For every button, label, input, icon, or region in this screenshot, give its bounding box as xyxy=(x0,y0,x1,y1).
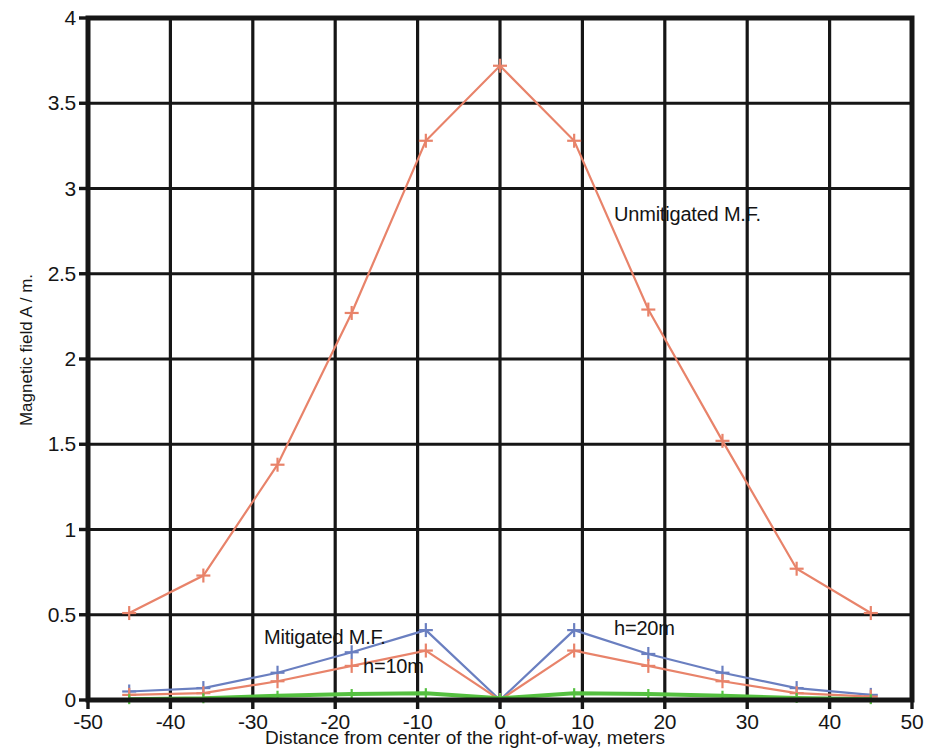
data-point-marker xyxy=(641,303,655,317)
data-point-marker xyxy=(271,674,285,688)
y-tick-label: 3 xyxy=(10,177,76,201)
y-tick-label: 1 xyxy=(10,518,76,542)
data-point-marker xyxy=(122,606,136,620)
magnetic-field-chart: 00.511.522.533.54 -50-40-30-20-100102030… xyxy=(0,0,930,753)
data-point-marker xyxy=(790,562,804,576)
data-point-marker xyxy=(569,688,579,698)
tick-marks xyxy=(79,18,912,709)
data-point-marker xyxy=(715,674,729,688)
data-point-marker xyxy=(345,659,359,673)
y-axis-title: Magnetic field A / m. xyxy=(17,220,37,480)
annotation-mitigated: Mitigated M.F. xyxy=(264,626,386,649)
annotation-h10: h=10m xyxy=(363,655,424,678)
plot-canvas xyxy=(0,0,930,753)
data-point-marker xyxy=(641,647,655,661)
data-point-marker xyxy=(567,644,581,658)
y-tick-label: 4 xyxy=(10,6,76,30)
data-point-marker xyxy=(864,606,878,620)
data-point-marker xyxy=(271,458,285,472)
data-point-marker xyxy=(345,306,359,320)
data-point-marker xyxy=(196,569,210,583)
data-point-marker xyxy=(421,688,431,698)
y-tick-label: 3.5 xyxy=(10,91,76,115)
annotation-unmitigated: Unmitigated M.F. xyxy=(614,203,761,226)
data-point-marker xyxy=(641,659,655,673)
y-tick-label: 0 xyxy=(10,688,76,712)
annotation-h20: h=20m xyxy=(614,617,675,640)
gridlines xyxy=(88,18,912,700)
x-axis-title: Distance from center of the right-of-way… xyxy=(0,727,930,749)
y-tick-label: 0.5 xyxy=(10,603,76,627)
